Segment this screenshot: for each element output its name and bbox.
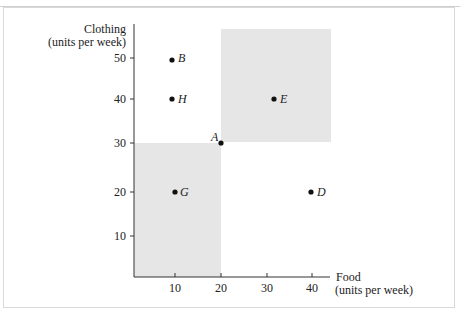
point-A-marker (218, 140, 223, 145)
point-B-label: B (178, 51, 186, 65)
point-G-label: G (180, 185, 189, 199)
ytick-label-10: 10 (114, 229, 126, 243)
ytick-label-30: 30 (114, 136, 126, 150)
xtick-label-40: 40 (306, 281, 318, 295)
point-E-marker (271, 96, 276, 101)
xtick-label-10: 10 (169, 281, 181, 295)
chart: 50 40 30 20 10 10 20 30 40 Clothing (uni… (0, 0, 460, 312)
y-axis-title-line1: Clothing (84, 22, 126, 36)
point-D-label: D (316, 185, 326, 199)
shaded-region-lower-left (134, 143, 221, 277)
ytick-label-20: 20 (114, 185, 126, 199)
point-E-label: E (279, 92, 288, 106)
point-H-label: H (177, 92, 188, 106)
xtick-label-30: 30 (261, 281, 273, 295)
xtick-label-20: 20 (215, 281, 227, 295)
x-axis-title-line1: Food (336, 270, 361, 284)
point-B-marker (169, 57, 174, 62)
ytick-label-40: 40 (114, 92, 126, 106)
point-G-marker (172, 189, 177, 194)
x-axis-title-line2: (units per week) (335, 283, 413, 297)
ytick-label-50: 50 (114, 51, 126, 65)
shaded-region-upper-right (221, 29, 331, 142)
point-A-label: A (210, 130, 219, 144)
point-H-marker (169, 96, 174, 101)
point-D-marker (308, 189, 313, 194)
y-axis-title-line2: (units per week) (48, 35, 126, 49)
y-ticks (130, 58, 134, 236)
